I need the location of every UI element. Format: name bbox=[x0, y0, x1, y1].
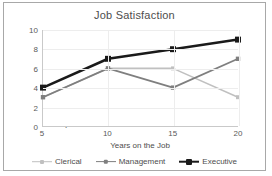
gridline-horizontal bbox=[43, 30, 238, 31]
series-svg bbox=[43, 30, 238, 126]
y-axis-tick-0: 0 bbox=[20, 123, 38, 132]
gridline-horizontal bbox=[43, 88, 238, 89]
series-line-management bbox=[43, 59, 238, 97]
legend-label-management: Management bbox=[119, 157, 166, 166]
legend-swatch-clerical-icon bbox=[32, 157, 52, 166]
gridline-horizontal bbox=[43, 69, 238, 70]
y-axis-tick-8: 8 bbox=[20, 45, 38, 54]
legend-label-executive: Executive bbox=[202, 157, 237, 166]
gridline-vertical bbox=[174, 30, 175, 126]
y-axis-tick-4: 4 bbox=[20, 84, 38, 93]
chart-legend: ClericalManagementExecutive bbox=[4, 157, 265, 166]
series-line-executive bbox=[43, 40, 238, 88]
gridline-horizontal bbox=[43, 49, 238, 50]
legend-item-management[interactable]: Management bbox=[96, 157, 166, 166]
legend-swatch-executive-icon bbox=[179, 157, 199, 166]
series-executive bbox=[40, 37, 241, 91]
gridline-horizontal bbox=[43, 108, 238, 109]
gridline-vertical bbox=[239, 30, 240, 126]
legend-swatch-management-icon bbox=[96, 157, 116, 166]
y-axis-tick-10: 10 bbox=[20, 26, 38, 35]
data-point-management-5 bbox=[41, 95, 45, 99]
y-axis-tick-6: 6 bbox=[20, 64, 38, 73]
chart-frame: Job Satisfaction Job Satisfaction 1-10 S… bbox=[3, 2, 266, 171]
y-axis-tick-2: 2 bbox=[20, 103, 38, 112]
x-axis-label: Years on the Job bbox=[42, 141, 238, 150]
legend-label-clerical: Clerical bbox=[55, 157, 82, 166]
series-management bbox=[41, 57, 240, 100]
x-axis-tick-15: 15 bbox=[168, 129, 177, 138]
gridline-vertical bbox=[108, 30, 109, 126]
y-axis-tick-labels: 0246810 bbox=[18, 30, 38, 127]
legend-item-executive[interactable]: Executive bbox=[179, 157, 237, 166]
x-axis-tick-20: 20 bbox=[234, 129, 243, 138]
x-axis-tick-10: 10 bbox=[103, 129, 112, 138]
data-point-executive-20 bbox=[235, 37, 241, 43]
legend-item-clerical[interactable]: Clerical bbox=[32, 157, 82, 166]
x-axis-tick-5: 5 bbox=[40, 129, 44, 138]
chart-title: Job Satisfaction bbox=[4, 9, 265, 21]
x-axis-tick-labels: 5101520 bbox=[42, 129, 238, 141]
plot-area bbox=[42, 30, 238, 127]
